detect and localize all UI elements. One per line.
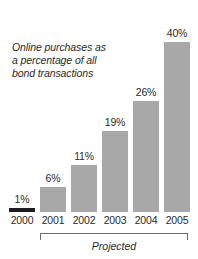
projected-label: Projected xyxy=(40,240,188,252)
x-tick-2003: 2003 xyxy=(98,214,132,226)
x-tick-2004: 2004 xyxy=(129,214,163,226)
plot-area: 1% 6% 11% 19% 26% 40% xyxy=(0,0,198,212)
bar-2000 xyxy=(9,208,35,212)
bar-2002 xyxy=(71,165,97,212)
x-axis-tick-labels: 2000 2001 2002 2003 2004 2005 xyxy=(0,214,198,228)
bar-column-2002: 11% xyxy=(71,0,97,212)
bar-chart: Online purchases as a percentage of all … xyxy=(0,0,198,259)
projected-bracket xyxy=(40,233,188,240)
bar-value-label-2002: 11% xyxy=(67,150,101,162)
bar-value-label-2003: 19% xyxy=(98,116,132,128)
bar-value-label-2000: 1% xyxy=(5,193,39,205)
bar-column-2004: 26% xyxy=(133,0,159,212)
bar-2001 xyxy=(40,187,66,212)
bar-2003 xyxy=(102,131,128,212)
bar-2005 xyxy=(164,42,190,212)
bar-column-2005: 40% xyxy=(164,0,190,212)
x-tick-2005: 2005 xyxy=(160,214,194,226)
bar-2004 xyxy=(133,101,159,212)
bar-column-2001: 6% xyxy=(40,0,66,212)
bar-value-label-2001: 6% xyxy=(36,172,70,184)
bar-column-2000: 1% xyxy=(9,0,35,212)
x-tick-2001: 2001 xyxy=(36,214,70,226)
x-tick-2000: 2000 xyxy=(5,214,39,226)
bar-column-2003: 19% xyxy=(102,0,128,212)
x-tick-2002: 2002 xyxy=(67,214,101,226)
bar-value-label-2004: 26% xyxy=(129,86,163,98)
bar-value-label-2005: 40% xyxy=(160,27,194,39)
